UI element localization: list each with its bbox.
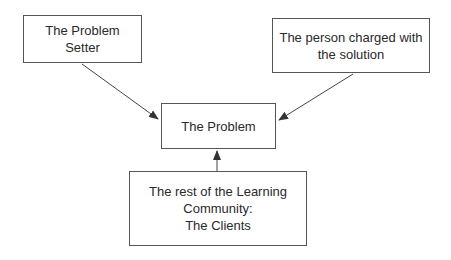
node-label-line: The Problem	[181, 118, 255, 135]
node-label-line: The person charged with	[279, 29, 422, 46]
node-label-line: Setter	[45, 39, 119, 56]
node-label-line: the solution	[279, 46, 422, 63]
node-label-line: The rest of the Learning	[149, 183, 287, 200]
arrow-setter-to-problem	[82, 64, 158, 119]
node-problem: The Problem	[161, 103, 276, 149]
node-clients: The rest of the Learning Community: The …	[129, 171, 307, 246]
node-problem-setter: The Problem Setter	[23, 15, 142, 63]
node-label-line: Community:	[149, 200, 287, 217]
node-label-line: The Problem	[45, 22, 119, 39]
arrow-solution-to-problem	[279, 74, 353, 120]
node-label-line: The Clients	[149, 217, 287, 234]
node-solution-person: The person charged with the solution	[272, 18, 430, 73]
